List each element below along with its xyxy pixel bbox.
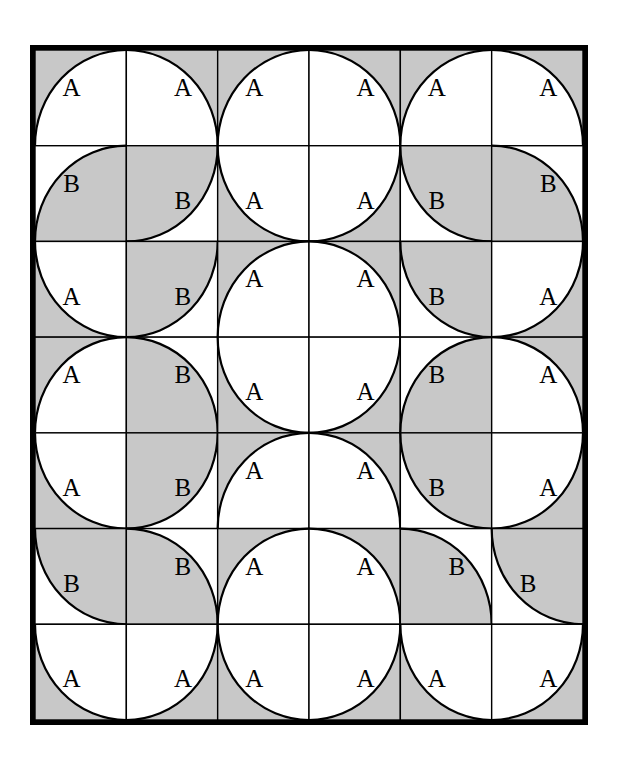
tile-label: A (63, 283, 81, 310)
tile-label: A (357, 74, 375, 101)
tile-label: A (357, 457, 375, 484)
tile-label: A (357, 187, 375, 214)
tile: B (126, 241, 217, 337)
tile: A (218, 146, 309, 242)
tile-label: B (175, 553, 192, 580)
tile-label: A (245, 665, 263, 692)
tile-label: B (429, 474, 446, 501)
tile: A (218, 337, 309, 433)
tile: A (492, 337, 583, 433)
tile: A (309, 241, 400, 337)
tile-label: A (245, 265, 263, 292)
tile-label: B (540, 170, 557, 197)
tile: B (35, 146, 126, 242)
tile: A (35, 241, 126, 337)
tile: A (35, 337, 126, 433)
tile: A (309, 50, 400, 146)
tile: B (126, 146, 217, 242)
tile-label: B (175, 187, 192, 214)
tile-label: A (357, 265, 375, 292)
tile-label: A (539, 474, 557, 501)
tile: A (218, 241, 309, 337)
tile-label: B (449, 553, 466, 580)
tile-label: A (539, 361, 557, 388)
tile: B (400, 529, 491, 625)
tile-label: A (539, 74, 557, 101)
tile-label: A (357, 378, 375, 405)
tile: B (400, 241, 491, 337)
tile: A (218, 624, 309, 720)
tile-label: B (63, 570, 80, 597)
tile-label: A (539, 665, 557, 692)
tile-label: B (175, 474, 192, 501)
tile-label: B (520, 570, 537, 597)
tile: A (400, 50, 491, 146)
tile: B (400, 433, 491, 529)
tile: A (492, 50, 583, 146)
tile: A (492, 624, 583, 720)
tile-label: B (429, 361, 446, 388)
tiling-figure: AAAAAABBAABBABAABAABAABAABAABABBAABBAAAA… (30, 45, 588, 725)
tile: A (126, 50, 217, 146)
tile-label: A (63, 361, 81, 388)
tile-label: B (175, 361, 192, 388)
tile: B (400, 146, 491, 242)
tile-label: A (357, 665, 375, 692)
tile-label: A (174, 665, 192, 692)
tile-label: A (245, 553, 263, 580)
tile: B (126, 529, 217, 625)
tile-label: A (63, 474, 81, 501)
tile-label: B (175, 283, 192, 310)
tile: A (309, 337, 400, 433)
tile-label: A (174, 74, 192, 101)
tile: B (400, 337, 491, 433)
tile: A (309, 529, 400, 625)
tile-label: B (63, 170, 80, 197)
tile: A (218, 529, 309, 625)
tile: B (126, 433, 217, 529)
tile-grid: AAAAAABBAABBABAABAABAABAABAABABBAABBAAAA… (35, 50, 583, 720)
tile-label: A (428, 665, 446, 692)
tile: A (35, 50, 126, 146)
tile-label: A (245, 378, 263, 405)
tile: A (35, 624, 126, 720)
tile-label: B (429, 283, 446, 310)
tile-label: A (428, 74, 446, 101)
tile-label: B (429, 187, 446, 214)
tile: A (309, 146, 400, 242)
tile-label: A (245, 187, 263, 214)
tile-label: A (539, 283, 557, 310)
tile-label: A (63, 665, 81, 692)
tile: A (126, 624, 217, 720)
tile: A (35, 433, 126, 529)
tile: B (492, 146, 583, 242)
tile: A (492, 241, 583, 337)
tile: B (492, 529, 583, 625)
tile-label: A (245, 457, 263, 484)
tile: A (400, 624, 491, 720)
tile: B (35, 529, 126, 625)
tile: A (492, 433, 583, 529)
tile-label: A (245, 74, 263, 101)
tile: A (309, 624, 400, 720)
tile-label: A (357, 553, 375, 580)
tile: A (218, 433, 309, 529)
tile: A (218, 50, 309, 146)
tile: A (309, 433, 400, 529)
tile-label: A (63, 74, 81, 101)
tile: B (126, 337, 217, 433)
